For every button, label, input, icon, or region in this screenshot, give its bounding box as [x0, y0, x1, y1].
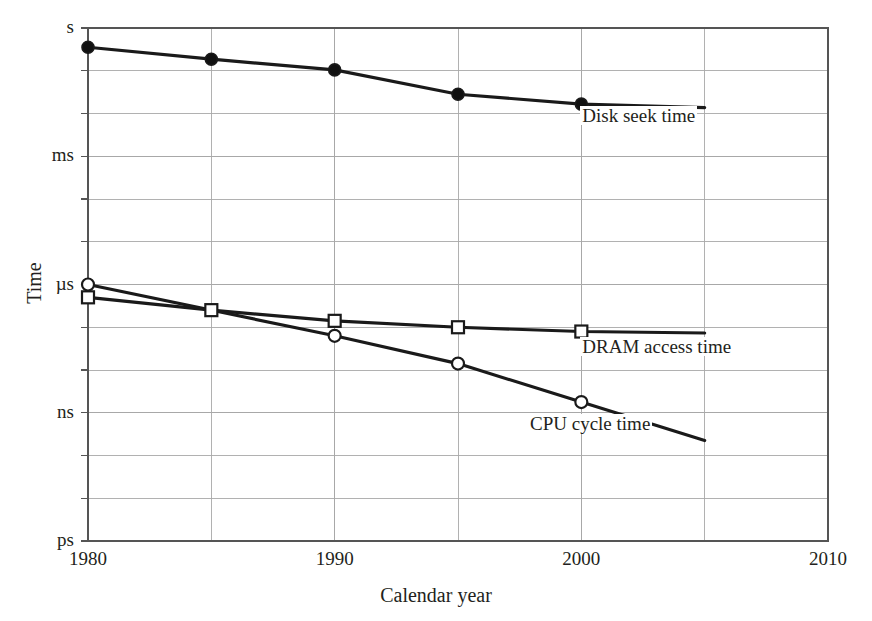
y-axis-title: Time: [24, 243, 44, 323]
y-tick-label-ns: ns: [0, 402, 74, 421]
x-tick-label-2010: 2010: [788, 549, 868, 568]
x-tick-label-2000: 2000: [541, 549, 621, 568]
y-tick-label-ps: ps: [0, 530, 74, 549]
x-axis-title: Calendar year: [0, 585, 872, 605]
gridlines-group: [88, 28, 828, 541]
x-tick-label-1990: 1990: [295, 549, 375, 568]
chart-plot-area: [0, 0, 872, 621]
x-tick-label-1980: 1980: [48, 549, 128, 568]
y-tick-label-s: s: [0, 17, 74, 36]
annotation-cpu-cycle-time: CPU cycle time: [528, 414, 652, 433]
y-tick-label-ms: ms: [0, 145, 74, 164]
annotation-disk-seek-time: Disk seek time: [580, 106, 697, 125]
chart-figure: s ms µs ns ps 1980 1990 2000 2010 Time C…: [0, 0, 872, 621]
annotation-dram-access-time: DRAM access time: [580, 337, 733, 356]
